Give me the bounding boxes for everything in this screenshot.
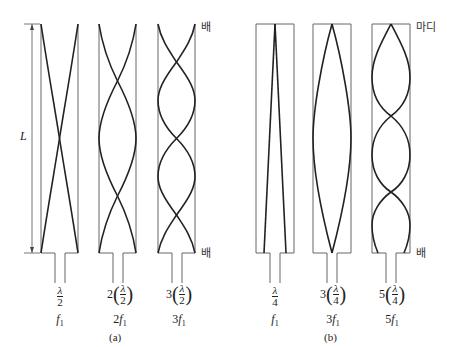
panel-caption-b: (b)	[324, 331, 337, 343]
antinode-label-a-top: 배	[201, 18, 211, 34]
frequency-label-b2: 3f1	[318, 312, 348, 328]
wavelength-label-b2: 3(λ4)	[313, 283, 353, 306]
frequency-label-a1: f1	[45, 312, 75, 328]
antinode-label-a-bottom: 배	[201, 244, 211, 260]
frequency-label-b3: 5f1	[377, 312, 407, 328]
node-label-b-top: 마디	[416, 18, 436, 34]
wavelength-label-b3: 5(λ4)	[372, 283, 412, 306]
wavelength-label-a1: λ2	[49, 285, 71, 308]
wavelength-label-a2: 2(λ2)	[100, 283, 140, 306]
wavelength-label-a3: 3(λ2)	[159, 283, 199, 306]
antinode-label-b-bottom: 배	[416, 244, 426, 260]
frequency-label-b1: f1	[260, 312, 290, 328]
panel-caption-a: (a)	[109, 331, 121, 343]
length-label: L	[20, 129, 27, 144]
wavelength-label-b1: λ4	[264, 285, 286, 308]
frequency-label-a3: 3f1	[164, 312, 194, 328]
frequency-label-a2: 2f1	[105, 312, 135, 328]
